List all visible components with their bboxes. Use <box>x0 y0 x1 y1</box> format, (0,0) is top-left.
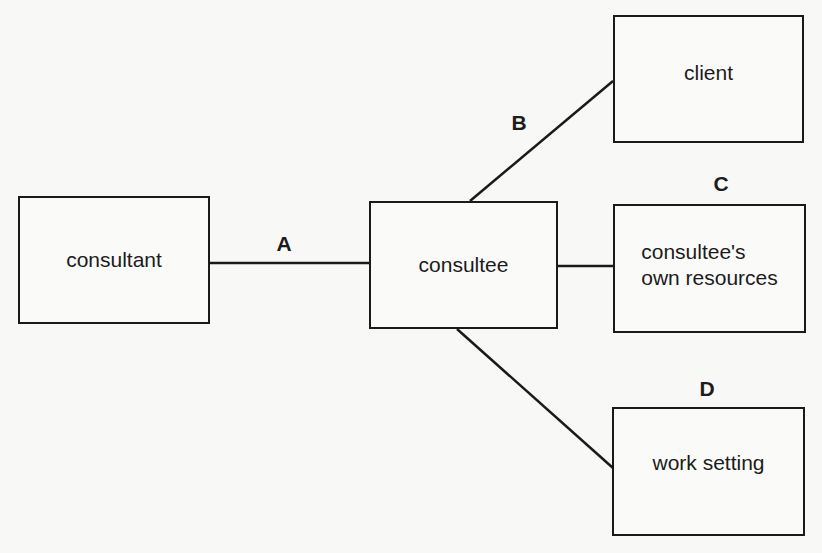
node-client-label: client <box>684 60 733 85</box>
edge-a-label: A <box>276 232 291 256</box>
node-own-resources-label-line1: consultee's <box>641 239 778 264</box>
edge-c-label: C <box>713 172 728 196</box>
edge-d-label: D <box>699 377 714 401</box>
node-consultant: consultant <box>18 196 210 324</box>
edge-d-line <box>457 329 613 468</box>
node-own-resources: consultee's own resources <box>613 204 806 333</box>
node-consultant-label: consultant <box>66 247 162 272</box>
node-consultee-label: consultee <box>419 252 509 277</box>
edge-b-label: B <box>511 111 526 135</box>
node-work-setting: work setting <box>612 407 805 536</box>
node-client: client <box>613 15 804 143</box>
edge-b-line <box>470 81 613 201</box>
node-consultee: consultee <box>369 201 558 329</box>
node-own-resources-label-line2: own resources <box>641 265 778 290</box>
node-work-setting-label: work setting <box>652 450 764 475</box>
